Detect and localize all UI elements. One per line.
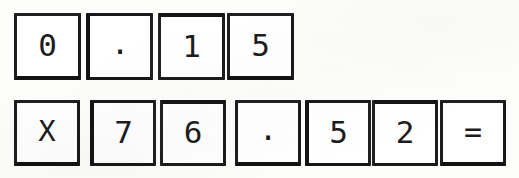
character-glyph-digit: 6 bbox=[184, 117, 203, 148]
character-glyph-digit: 5 bbox=[329, 117, 348, 148]
character-box-digit-1-4[interactable]: 5 bbox=[305, 100, 371, 166]
character-box-digit-0-0[interactable]: 0 bbox=[14, 13, 81, 80]
character-box-sheet: 0.15 X76.52= bbox=[0, 0, 519, 178]
character-box-digit-1-1[interactable]: 7 bbox=[90, 100, 156, 166]
character-box-operator-equals-1-6[interactable]: = bbox=[440, 100, 506, 166]
character-glyph-operator-equals: = bbox=[464, 117, 482, 147]
character-glyph-decimal-point: . bbox=[111, 28, 130, 59]
character-glyph-decimal-point: . bbox=[259, 114, 278, 145]
character-box-digit-1-5[interactable]: 2 bbox=[372, 100, 438, 166]
character-box-decimal-point-1-3[interactable]: . bbox=[235, 100, 301, 166]
character-box-digit-1-2[interactable]: 6 bbox=[160, 100, 226, 166]
character-glyph-operator-multiply: X bbox=[38, 117, 55, 146]
character-glyph-digit: 2 bbox=[396, 117, 415, 148]
character-glyph-digit: 7 bbox=[114, 117, 133, 148]
character-glyph-digit: 5 bbox=[251, 30, 270, 61]
character-box-decimal-point-0-1[interactable]: . bbox=[86, 13, 153, 80]
character-box-digit-0-2[interactable]: 1 bbox=[158, 13, 225, 80]
character-box-digit-0-3[interactable]: 5 bbox=[227, 13, 294, 80]
character-box-operator-multiply-1-0[interactable]: X bbox=[14, 100, 80, 166]
character-glyph-digit: 1 bbox=[182, 31, 201, 62]
character-glyph-digit: 0 bbox=[38, 30, 57, 61]
